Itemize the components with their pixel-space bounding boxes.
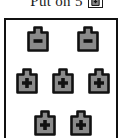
instruction-header: Put on 5	[0, 0, 133, 11]
plus-token-icon	[88, 0, 103, 8]
screen-root: Put on 5	[0, 0, 133, 138]
plus-token-icon[interactable]	[86, 68, 112, 94]
token-row	[6, 68, 120, 94]
token-row	[6, 110, 120, 136]
token-row	[6, 26, 120, 52]
token-board	[4, 18, 118, 138]
plus-token-icon[interactable]	[32, 110, 58, 136]
minus-token-icon[interactable]	[25, 26, 51, 52]
minus-token-icon[interactable]	[75, 26, 101, 52]
plus-token-icon[interactable]	[68, 110, 94, 136]
instruction-text: Put on 5	[30, 0, 82, 9]
plus-token-icon[interactable]	[50, 68, 76, 94]
plus-token-icon[interactable]	[14, 68, 40, 94]
